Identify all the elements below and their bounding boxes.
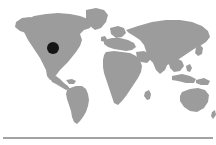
map-area[interactable] [0, 0, 216, 133]
location-marker-dot[interactable] [47, 42, 59, 54]
world-map-svg[interactable] [0, 0, 216, 133]
world-map-location-widget [0, 0, 216, 145]
horizontal-divider [3, 137, 213, 139]
